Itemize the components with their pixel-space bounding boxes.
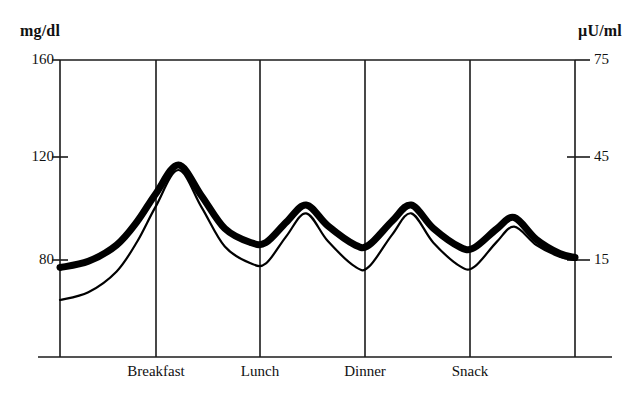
chart-container: mg/dl µU/ml 160 120 80 75 45 15 Breakfas…	[0, 0, 634, 407]
series-line-glucose	[60, 165, 575, 268]
series-line-insulin	[60, 170, 575, 300]
plot-area	[0, 0, 634, 407]
